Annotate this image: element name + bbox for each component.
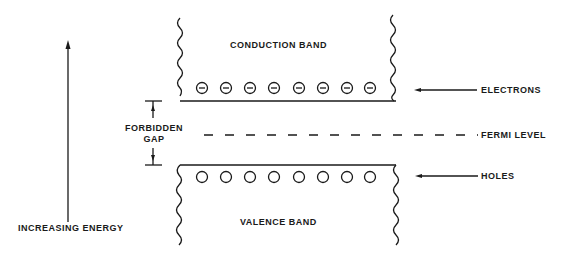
hole-icon bbox=[318, 172, 329, 183]
electron-icon bbox=[221, 83, 232, 94]
hole-icon bbox=[221, 172, 232, 183]
holes bbox=[197, 172, 376, 183]
hole-icon bbox=[245, 172, 256, 183]
holes-arrow bbox=[415, 174, 478, 178]
electrons-label: ELECTRONS bbox=[481, 85, 541, 95]
electron-icon bbox=[365, 83, 376, 94]
hole-icon bbox=[294, 172, 305, 183]
fermi-level-label: FERMI LEVEL bbox=[481, 130, 546, 140]
hole-icon bbox=[342, 172, 353, 183]
forbidden-gap-label-line2: GAP bbox=[118, 134, 190, 144]
electron-icon bbox=[245, 83, 256, 94]
valence-band-label: VALENCE BAND bbox=[240, 217, 317, 227]
hole-icon bbox=[269, 172, 280, 183]
conduction-band-label: CONDUCTION BAND bbox=[230, 40, 327, 50]
electrons bbox=[197, 83, 376, 94]
holes-label: HOLES bbox=[481, 171, 515, 181]
forbidden-gap-label-line1: FORBIDDEN bbox=[118, 123, 190, 133]
electron-icon bbox=[318, 83, 329, 94]
electrons-arrow bbox=[414, 88, 477, 92]
electron-icon bbox=[294, 83, 305, 94]
electron-icon bbox=[197, 83, 208, 94]
increasing-energy-arrow bbox=[66, 40, 71, 222]
forbidden-gap-marker bbox=[145, 101, 162, 165]
increasing-energy-label: INCREASING ENERGY bbox=[18, 223, 124, 233]
electron-icon bbox=[342, 83, 353, 94]
conduction-band-shape bbox=[178, 15, 397, 101]
hole-icon bbox=[365, 172, 376, 183]
valence-band-shape bbox=[177, 165, 399, 245]
electron-icon bbox=[269, 83, 280, 94]
hole-icon bbox=[197, 172, 208, 183]
